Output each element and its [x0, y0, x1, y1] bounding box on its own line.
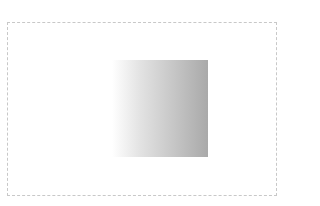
gradient-rectangle	[112, 60, 208, 157]
